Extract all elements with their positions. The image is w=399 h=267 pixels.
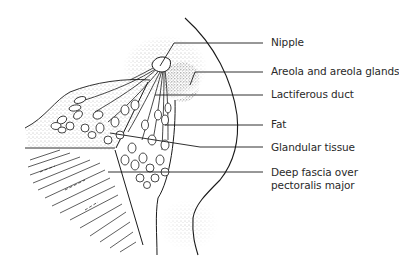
- label-deep-fascia: Deep fascia over: [271, 166, 358, 179]
- label-glandular-tissue: Glandular tissue: [271, 141, 355, 154]
- breast-anatomy-diagram: [0, 0, 399, 267]
- label-lactiferous-duct: Lactiferous duct: [271, 88, 354, 101]
- label-deep-fascia-line2: pectoralis major: [271, 179, 355, 192]
- lower-shading: [157, 199, 219, 251]
- fat-region: [25, 80, 150, 151]
- label-nipple: Nipple: [271, 36, 304, 49]
- label-areola: Areola and areola glands: [271, 65, 399, 78]
- label-fat: Fat: [271, 118, 286, 131]
